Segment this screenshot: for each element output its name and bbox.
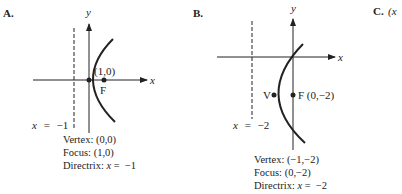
panel-b-directrix-text: Directrix: x = −2: [254, 180, 327, 191]
panel-a-vertex-text: Vertex: (0,0): [63, 134, 117, 146]
panel-a-x-label: x: [149, 74, 155, 86]
panel-b-vertex-dot: [272, 93, 277, 98]
panel-c-label: C.: [373, 5, 384, 17]
panel-b-y-label: y: [290, 2, 296, 14]
panel-a-focus-dot: [102, 78, 107, 83]
panel-b-directrix-label: x = −2: [232, 119, 269, 131]
panel-a-point-label: (1,0): [94, 65, 115, 78]
panel-a: A. y x (1,0) F x = −1 Vertex: (0,0) Focu…: [3, 6, 155, 171]
panel-b-label: B.: [193, 7, 203, 19]
panel-b-focus-text: Focus: (0,−2): [254, 167, 311, 179]
panel-a-directrix-text: Directrix: x = −1: [63, 160, 136, 171]
panel-a-label: A.: [3, 7, 14, 19]
panel-b-vertex-label: V: [263, 89, 271, 101]
panel-b-focus-label: F (0,−2): [298, 89, 334, 102]
panel-c: C. (x: [373, 5, 397, 18]
panel-a-focus-text: Focus: (1,0): [63, 147, 114, 159]
panel-a-directrix-label: x = −1: [31, 119, 68, 131]
panel-b: B. y x V F (0,−2) x = −2 Vertex: (−1,−2)…: [193, 2, 343, 191]
panel-b-x-label: x: [337, 51, 343, 63]
figure-canvas: A. y x (1,0) F x = −1 Vertex: (0,0) Focu…: [0, 0, 402, 194]
panel-a-focus-label: F: [100, 84, 106, 96]
panel-b-vertex-text: Vertex: (−1,−2): [254, 154, 319, 166]
panel-a-y-label: y: [85, 6, 91, 18]
panel-c-partial-text: (x: [388, 5, 397, 18]
panel-b-focus-dot: [291, 93, 296, 98]
panel-a-vertex-dot: [87, 78, 92, 83]
